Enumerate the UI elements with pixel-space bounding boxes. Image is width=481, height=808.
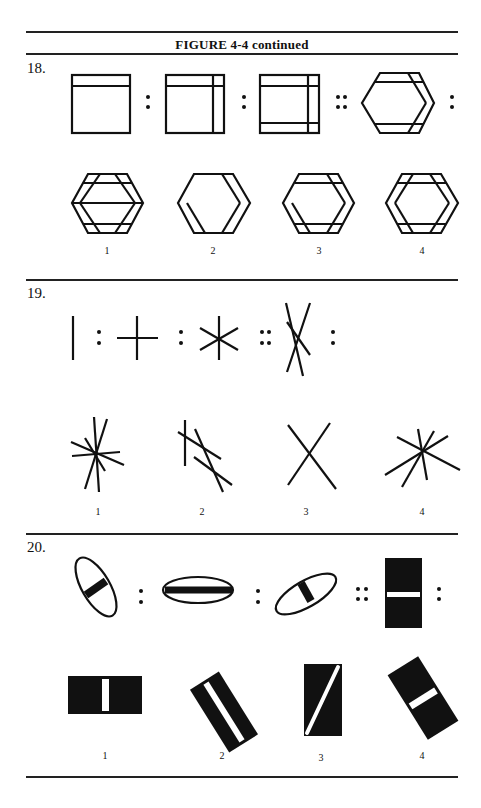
q20-option-3-figure[interactable] bbox=[304, 664, 342, 736]
q19-stem-3 bbox=[200, 316, 238, 360]
q19-separator-double bbox=[260, 330, 271, 345]
q18-stem-hexagon bbox=[362, 73, 434, 133]
q19-option-2-label: 2 bbox=[192, 506, 212, 517]
q20-stem-3-ellipse bbox=[270, 566, 342, 623]
q20-separator-2 bbox=[256, 589, 260, 604]
q20-option-2-figure[interactable] bbox=[190, 672, 258, 753]
q18-separator-double bbox=[336, 95, 347, 109]
q19-option-3-figure[interactable] bbox=[288, 423, 336, 489]
q19-separator-1 bbox=[97, 330, 101, 345]
q20-option-4-figure[interactable] bbox=[388, 656, 459, 740]
q19-option-4-figure[interactable] bbox=[385, 429, 460, 487]
q18-option-3-figure[interactable] bbox=[283, 174, 354, 233]
q19-option-1-label: 1 bbox=[88, 506, 108, 517]
q20-stem-2-ellipse bbox=[163, 577, 233, 603]
q18-separator-2 bbox=[242, 95, 246, 109]
q20-separator-double bbox=[356, 587, 368, 601]
q18-option-2-label: 2 bbox=[203, 245, 223, 256]
q19-stem-4 bbox=[286, 303, 310, 376]
q20-option-3-label: 3 bbox=[311, 752, 331, 763]
q18-option-1-label: 1 bbox=[97, 245, 117, 256]
q20-separator-1 bbox=[139, 589, 143, 604]
q18-separator-1 bbox=[146, 95, 150, 109]
q19-option-1-figure[interactable] bbox=[71, 417, 124, 492]
q19-option-3-label: 3 bbox=[296, 506, 316, 517]
q20-option-4-label: 4 bbox=[412, 750, 432, 761]
q18-separator-3 bbox=[450, 95, 454, 109]
q19-option-2-figure[interactable] bbox=[178, 420, 232, 492]
q18-option-1-figure[interactable] bbox=[72, 174, 143, 233]
q19-separator-3 bbox=[331, 330, 335, 345]
q20-option-1-figure[interactable] bbox=[68, 676, 142, 714]
q20-option-1-label: 1 bbox=[95, 750, 115, 761]
q18-option-3-label: 3 bbox=[309, 245, 329, 256]
q18-option-4-label: 4 bbox=[412, 245, 432, 256]
figure-drawings bbox=[0, 0, 481, 808]
q20-option-2-label: 2 bbox=[212, 750, 232, 761]
q20-stem-1-ellipse bbox=[67, 551, 124, 622]
q18-stem-square-3 bbox=[260, 75, 319, 133]
q18-stem-square-2 bbox=[166, 75, 224, 133]
q18-stem-square-1 bbox=[72, 75, 130, 133]
q18-option-2-figure[interactable] bbox=[178, 174, 250, 233]
q19-option-4-label: 4 bbox=[412, 506, 432, 517]
q19-stem-2 bbox=[117, 316, 158, 360]
q18-option-4-figure[interactable] bbox=[386, 174, 458, 233]
q19-separator-2 bbox=[179, 330, 183, 345]
q20-separator-3 bbox=[437, 587, 441, 601]
q20-stem-4-rectangle bbox=[385, 558, 422, 628]
